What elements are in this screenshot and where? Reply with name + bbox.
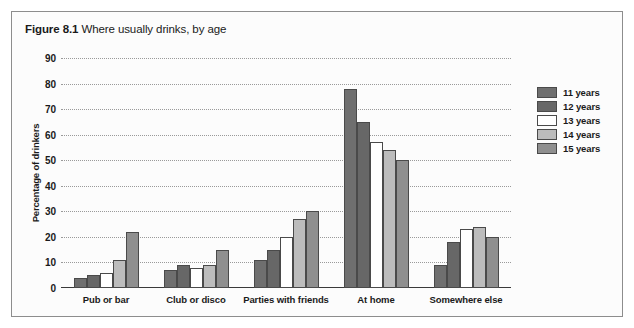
x-tick-label: At home	[331, 294, 421, 305]
figure-caption: Where usually drinks, by age	[81, 23, 226, 35]
bar	[267, 250, 280, 288]
x-tick-label: Parties with friends	[241, 294, 331, 305]
bar	[126, 232, 139, 288]
figure-panel: Figure 8.1 Where usually drinks, by age …	[11, 11, 623, 317]
legend-swatch-icon	[537, 143, 557, 154]
y-tick-label: 10	[16, 257, 56, 268]
bar	[177, 265, 190, 288]
y-tick-label: 60	[16, 129, 56, 140]
bar	[344, 89, 357, 288]
bar	[203, 265, 216, 288]
y-tick-label: 0	[16, 283, 56, 294]
bars-layer	[61, 58, 511, 288]
legend-item: 11 years	[537, 86, 600, 99]
bar	[216, 250, 229, 288]
bar-group	[241, 58, 331, 288]
bar	[254, 260, 267, 288]
legend-item: 15 years	[537, 142, 600, 155]
legend-item: 14 years	[537, 128, 600, 141]
bar	[383, 150, 396, 288]
legend-label: 13 years	[563, 115, 600, 126]
bar	[434, 265, 447, 288]
bar-group	[421, 58, 511, 288]
legend-label: 11 years	[563, 87, 600, 98]
bar	[87, 275, 100, 288]
y-tick-label: 20	[16, 231, 56, 242]
bar-group	[151, 58, 241, 288]
legend-swatch-icon	[537, 129, 557, 140]
bar	[293, 219, 306, 288]
bar-group	[61, 58, 151, 288]
bar	[460, 229, 473, 288]
y-axis-label: Percentage of drinkers	[30, 58, 44, 288]
x-tick-label: Pub or bar	[61, 294, 151, 305]
page-title: Figure 8.1 Where usually drinks, by age	[25, 23, 226, 35]
bar	[357, 122, 370, 288]
bar	[74, 278, 87, 288]
bar-group	[331, 58, 421, 288]
x-tick-label: Club or disco	[151, 294, 241, 305]
bar	[280, 237, 293, 288]
y-tick-label: 70	[16, 104, 56, 115]
y-tick-label: 80	[16, 78, 56, 89]
legend-label: 15 years	[563, 143, 600, 154]
legend-swatch-icon	[537, 101, 557, 112]
bar	[473, 227, 486, 288]
bar	[100, 273, 113, 288]
y-tick-label: 50	[16, 155, 56, 166]
legend-swatch-icon	[537, 87, 557, 98]
bar	[164, 270, 177, 288]
legend-swatch-icon	[537, 115, 557, 126]
y-tick-label: 90	[16, 53, 56, 64]
chart-legend: 11 years12 years13 years14 years15 years	[537, 86, 600, 156]
bar	[190, 268, 203, 288]
bar	[396, 160, 409, 288]
figure-number: Figure 8.1	[25, 23, 78, 35]
legend-item: 13 years	[537, 114, 600, 127]
legend-label: 14 years	[563, 129, 600, 140]
bar	[447, 242, 460, 288]
bar	[486, 237, 499, 288]
legend-label: 12 years	[563, 101, 600, 112]
bar	[306, 211, 319, 288]
x-tick-label: Somewhere else	[421, 294, 511, 305]
bar	[113, 260, 126, 288]
legend-item: 12 years	[537, 100, 600, 113]
y-tick-label: 40	[16, 180, 56, 191]
y-tick-label: 30	[16, 206, 56, 217]
plot-area: 9080706050403020100 Pub or barClub or di…	[61, 58, 511, 288]
bar	[370, 142, 383, 288]
